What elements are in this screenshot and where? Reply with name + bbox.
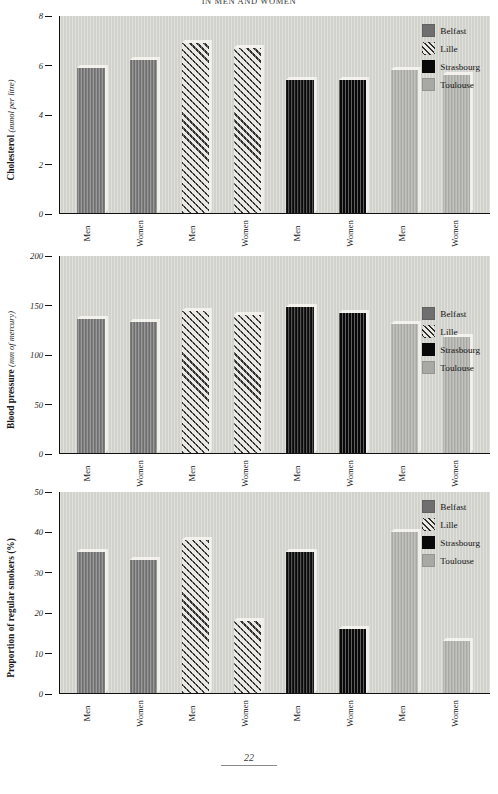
bar [443,641,470,693]
y-axis-units-text: (mm of mercury) [7,311,16,367]
x-label-slot: Women [434,694,486,724]
y-tick-label: 50 [26,400,43,410]
x-label-slot: Men [381,694,433,724]
legend-smokers: BelfastLilleStrasbourgToulouse [422,500,480,567]
y-tick: 30 [26,568,52,578]
y-tick: 50 [26,487,52,497]
y-axis-ticks-cholesterol: 02468 [30,16,52,214]
legend-item-lille: Lille [422,325,480,338]
y-tick-mark [45,256,52,257]
bar [77,319,104,453]
x-axis-tick-label: Men [83,226,104,242]
bar [234,48,261,213]
x-label-slot: Men [67,454,119,484]
y-tick-label: 0 [26,689,43,699]
x-label-slot: Men [277,214,329,244]
bar [130,60,157,213]
bar-slot [68,16,120,213]
x-label-slot: Men [67,694,119,724]
x-axis-tick-label: Women [345,700,366,727]
x-axis-tick-label: Men [187,226,208,242]
x-axis-tick-label: Men [83,706,104,722]
x-label-slot: Women [329,214,381,244]
legend-label: Toulouse [440,556,474,566]
plot-area-cholesterol: 02468 BelfastLilleStrasbourgToulouse Men… [30,16,490,214]
legend-item-lille: Lille [422,42,480,55]
bar-slot [277,16,329,213]
y-tick: 50 [26,400,52,410]
y-tick: 10 [26,649,52,659]
bar-slot [225,16,277,213]
x-label-slot: Men [277,694,329,724]
y-axis-ticks-smokers: 01020304050 [30,492,52,694]
page-folio: 22 [0,752,498,766]
y-tick: 40 [26,527,52,537]
legend-swatch-belfast-icon [422,307,435,320]
y-tick-mark [45,572,52,573]
x-axis-labels-cholesterol: MenWomenMenWomenMenWomenMenWomen [59,214,490,244]
x-axis-tick-label: Women [449,220,470,247]
y-tick: 100 [26,350,52,360]
y-tick-mark [45,65,52,66]
bar [339,80,366,213]
x-label-slot: Women [119,454,171,484]
x-axis-tick-label: Men [83,466,104,482]
y-axis-label-smokers: Proportion of regular smokers (%) [0,492,22,724]
x-label-slot: Men [172,214,224,244]
legend-label: Strasbourg [440,538,480,548]
page-number: 22 [0,752,498,763]
y-axis-label-text: Cholesterol [6,135,16,181]
x-axis-labels-smokers: MenWomenMenWomenMenWomenMenWomen [59,694,490,724]
x-axis-tick-label: Women [345,460,366,487]
y-tick-mark [45,164,52,165]
folio-rule [221,765,277,766]
x-label-slot: Men [172,454,224,484]
x-label-slot: Women [224,454,276,484]
x-axis-tick-label: Women [240,700,261,727]
y-tick-label: 10 [26,649,43,659]
legend-item-toulouse: Toulouse [422,554,480,567]
y-tick-label: 0 [26,449,43,459]
x-axis-tick-label: Men [187,466,208,482]
y-axis-label-cholesterol: Cholesterol (mmol per litre) [0,16,22,244]
x-axis-tick-label: Women [135,700,156,727]
bar [391,532,418,693]
y-tick-mark [45,355,52,356]
y-tick: 8 [26,11,52,21]
bar [77,552,104,693]
y-tick-mark [45,454,52,455]
x-axis-labels-bloodpressure: MenWomenMenWomenMenWomenMenWomen [59,454,490,484]
page-title: IN MEN AND WOMEN [0,0,498,6]
x-label-slot: Men [67,214,119,244]
bar [339,629,366,693]
chart-panel-bloodpressure: Blood pressure (mm of mercury) 050100150… [0,256,498,484]
legend-swatch-toulouse-icon [422,78,435,91]
plot-area-bloodpressure: 050100150200 BelfastLilleStrasbourgToulo… [30,256,490,454]
legend-label: Lille [440,44,457,54]
y-tick: 2 [26,160,52,170]
x-label-slot: Women [329,694,381,724]
legend-swatch-lille-icon [422,325,435,338]
y-tick: 0 [26,449,52,459]
legend-label: Toulouse [440,80,474,90]
legend-swatch-toulouse-icon [422,554,435,567]
y-tick-label: 100 [26,350,43,360]
y-tick-mark [45,653,52,654]
y-tick-mark [45,305,52,306]
bar [391,70,418,213]
y-tick-label: 200 [26,251,43,261]
y-tick: 0 [26,209,52,219]
legend-swatch-lille-icon [422,518,435,531]
bar [130,322,157,453]
bar [286,307,313,453]
legend-label: Strasbourg [440,62,480,72]
x-label-slot: Women [119,694,171,724]
legend-cholesterol: BelfastLilleStrasbourgToulouse [422,24,480,91]
x-axis-tick-label: Women [240,460,261,487]
y-tick: 4 [26,110,52,120]
x-axis-tick-label: Women [449,700,470,727]
y-axis-units-text: (mmol per litre) [7,79,16,132]
y-tick: 0 [26,689,52,699]
x-axis-tick-label: Women [135,460,156,487]
bar [286,80,313,213]
